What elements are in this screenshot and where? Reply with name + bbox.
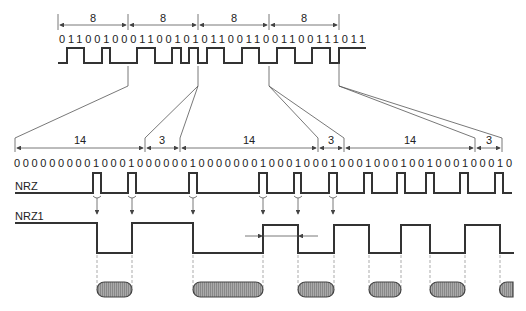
top-waveform (58, 48, 366, 63)
top-group-label: 8 (90, 12, 96, 24)
nrz1-waveform (15, 223, 514, 253)
bottom-group-label: 14 (404, 134, 416, 146)
top-group-label: 8 (301, 12, 307, 24)
bottom-group-markers (15, 138, 502, 152)
top-group-label: 8 (231, 12, 237, 24)
pit (430, 282, 465, 297)
bottom-bit-string: 0000000001000100000010000000100010001000… (14, 157, 512, 169)
pit (193, 282, 263, 297)
top-group-markers (58, 14, 339, 30)
bottom-group-label: 14 (74, 134, 86, 146)
transition-arrows (93, 196, 337, 214)
top-bit-string: 01100100011001010110011001100111011 (59, 33, 365, 45)
expansion-lines (15, 86, 502, 138)
nrz-label: NRZ (15, 180, 38, 192)
bottom-group-label: 14 (243, 134, 255, 146)
pit (298, 282, 334, 297)
bottom-group-label: 3 (328, 134, 334, 146)
nrz-waveform (15, 173, 512, 193)
bottom-group-label: 3 (159, 134, 165, 146)
pit (369, 282, 401, 297)
pit (97, 282, 132, 297)
pit (500, 282, 513, 297)
top-group-label: 8 (160, 12, 166, 24)
bottom-group-label: 3 (486, 134, 492, 146)
pits (97, 282, 513, 297)
encoding-diagram: 8 8 8 8 01100100011001010110011001100111… (0, 0, 526, 311)
nrz1-label: NRZ1 (15, 210, 44, 222)
